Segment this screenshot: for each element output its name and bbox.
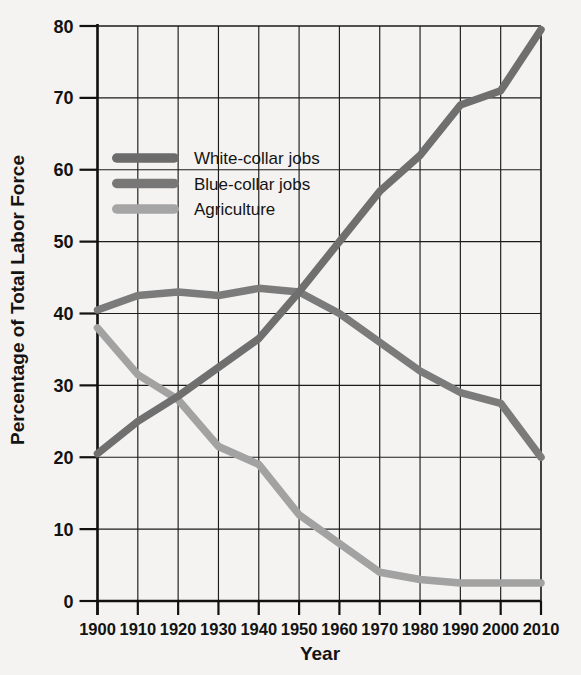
x-tick-label: 1920	[160, 620, 197, 638]
y-tick-label: 30	[53, 376, 73, 396]
x-tick-label: 1900	[79, 620, 116, 638]
chart-background	[0, 0, 581, 675]
legend-label: Agriculture	[194, 200, 275, 219]
legend-label: White-collar jobs	[194, 149, 320, 168]
x-tick-label: 1930	[200, 620, 237, 638]
y-tick-label: 60	[53, 160, 73, 180]
x-axis-title: Year	[300, 643, 341, 664]
y-axis-tick-labels: 01020304050607080	[53, 17, 73, 612]
x-tick-label: 1970	[361, 620, 398, 638]
y-tick-label: 50	[53, 232, 73, 252]
labor-force-line-chart: 01020304050607080 1900191019201930194019…	[0, 0, 581, 675]
y-tick-label: 0	[63, 592, 73, 612]
y-tick-label: 80	[53, 17, 73, 37]
legend-swatch	[112, 204, 179, 214]
x-tick-label: 2010	[523, 620, 560, 638]
x-tick-label: 1940	[240, 620, 277, 638]
y-tick-label: 20	[53, 448, 73, 468]
y-tick-label: 40	[53, 304, 73, 324]
y-tick-label: 10	[53, 520, 73, 540]
x-tick-label: 1990	[442, 620, 479, 638]
legend-swatch	[112, 179, 179, 189]
y-axis-title: Percentage of Total Labor Force	[7, 155, 28, 445]
y-tick-label: 70	[53, 88, 73, 108]
legend-label: Blue-collar jobs	[194, 175, 310, 194]
legend-swatch	[112, 153, 179, 163]
x-tick-label: 1980	[402, 620, 439, 638]
x-tick-label: 2000	[482, 620, 519, 638]
x-tick-label: 1960	[321, 620, 358, 638]
chart-container: 01020304050607080 1900191019201930194019…	[0, 0, 581, 675]
x-tick-label: 1910	[119, 620, 156, 638]
x-tick-label: 1950	[281, 620, 318, 638]
